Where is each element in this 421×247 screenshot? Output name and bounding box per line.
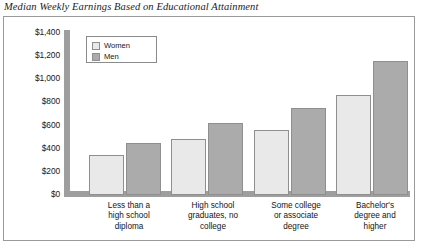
x-label-line: high school [84,211,174,221]
x-label-line: graduates, no [166,211,260,221]
legend-item-men: Men [92,52,119,61]
x-label-line: college [166,222,260,232]
legend-swatch-women-icon [92,42,100,50]
bar-men-less-than-high-school [126,143,161,195]
bar-women-less-than-high-school [89,155,124,195]
legend-swatch-men-icon [92,53,100,61]
bar-men-some-college [291,108,326,195]
legend: Women Men [86,36,157,63]
x-label-line: degree [249,222,343,232]
x-label-line: or associate [249,211,343,221]
x-label-line: Less than a [84,201,174,211]
bar-men-high-school-graduates [208,123,243,195]
x-label-some-college: Some college or associate degree [249,201,343,232]
legend-label-men: Men [104,52,119,61]
x-label-line: Bachelor's [331,201,419,211]
legend-label-women: Women [104,41,130,50]
x-axis-category-labels: Less than a high school diploma High sch… [0,201,421,245]
x-label-line: higher [331,222,419,232]
x-label-line: High school [166,201,260,211]
bar-women-bachelors-degree [336,95,371,195]
x-label-high-school-graduates: High school graduates, no college [166,201,260,232]
bar-men-bachelors-degree [373,61,408,195]
legend-item-women: Women [92,41,130,50]
bar-women-some-college [254,130,289,195]
x-label-less-than-high-school: Less than a high school diploma [84,201,174,232]
bar-women-high-school-graduates [171,139,206,195]
x-label-line: degree and [331,211,419,221]
x-label-line: Some college [249,201,343,211]
x-label-line: diploma [84,222,174,232]
x-label-bachelors-degree: Bachelor's degree and higher [331,201,419,232]
